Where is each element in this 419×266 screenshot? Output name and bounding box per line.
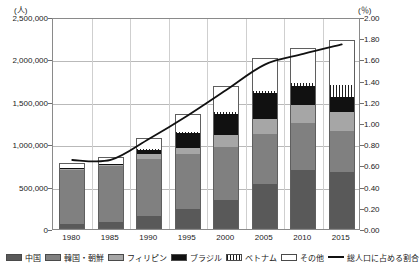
ratio-line-series xyxy=(53,19,361,231)
right-tick-mark xyxy=(360,18,364,19)
legend-item-vietnam: ベトナム xyxy=(226,252,277,263)
left-tick-label: 2,000,000 xyxy=(0,56,48,65)
legend-label: ベトナム xyxy=(245,252,277,263)
right-tick-label: 0.20 xyxy=(364,204,404,213)
legend-swatch-brazil xyxy=(171,254,187,261)
legend-swatch-other xyxy=(281,254,297,261)
legend-item-china: 中国 xyxy=(6,252,41,263)
legend-label: ブラジル xyxy=(190,252,222,263)
right-tick-label: 2.00 xyxy=(364,14,404,23)
legend-item-korea: 韓国・朝鮮 xyxy=(45,252,104,263)
plot-area xyxy=(52,18,360,230)
right-tick-mark xyxy=(360,124,364,125)
left-tick-label: 500,000 xyxy=(0,183,48,192)
left-tick-label: 0 xyxy=(0,226,48,235)
legend-label: フィリピン xyxy=(127,252,167,263)
right-tick-label: 1.00 xyxy=(364,120,404,129)
right-tick-mark xyxy=(360,188,364,189)
right-tick-label: 1.60 xyxy=(364,56,404,65)
left-tick-mark xyxy=(48,103,52,104)
legend-swatch-korea xyxy=(45,254,61,261)
left-tick-mark xyxy=(48,145,52,146)
chart-legend: 中国韓国・朝鮮フィリピンブラジルベトナムその他総人口に占める割合 xyxy=(6,250,400,264)
left-tick-mark xyxy=(48,18,52,19)
right-tick-mark xyxy=(360,60,364,61)
legend-swatch-line xyxy=(328,256,344,258)
left-tick-label: 2,500,000 xyxy=(0,14,48,23)
right-tick-mark xyxy=(360,166,364,167)
left-tick-mark xyxy=(48,230,52,231)
right-tick-label: 0.00 xyxy=(364,226,404,235)
legend-swatch-vietnam xyxy=(226,254,242,261)
left-tick-mark xyxy=(48,60,52,61)
right-tick-label: 1.40 xyxy=(364,77,404,86)
right-tick-label: 1.80 xyxy=(364,35,404,44)
right-tick-label: 1.20 xyxy=(364,98,404,107)
right-tick-label: 0.80 xyxy=(364,141,404,150)
right-tick-mark xyxy=(360,39,364,40)
legend-label: 総人口に占める割合 xyxy=(347,252,419,263)
legend-swatch-china xyxy=(6,254,22,261)
legend-label: その他 xyxy=(300,252,324,263)
left-tick-label: 1,500,000 xyxy=(0,98,48,107)
right-tick-mark xyxy=(360,230,364,231)
right-tick-label: 0.40 xyxy=(364,183,404,192)
left-tick-mark xyxy=(48,188,52,189)
x-tick-label-2015: 2015 xyxy=(318,233,364,242)
right-tick-mark xyxy=(360,103,364,104)
legend-label: 韓国・朝鮮 xyxy=(64,252,104,263)
right-tick-mark xyxy=(360,209,364,210)
legend-item-other: その他 xyxy=(281,252,324,263)
legend-item-phil: フィリピン xyxy=(108,252,167,263)
legend-swatch-phil xyxy=(108,254,124,261)
legend-item-brazil: ブラジル xyxy=(171,252,222,263)
legend-item-line: 総人口に占める割合 xyxy=(328,252,419,263)
legend-label: 中国 xyxy=(25,252,41,263)
right-tick-label: 0.60 xyxy=(364,162,404,171)
right-tick-mark xyxy=(360,82,364,83)
left-tick-label: 1,000,000 xyxy=(0,141,48,150)
right-tick-mark xyxy=(360,145,364,146)
